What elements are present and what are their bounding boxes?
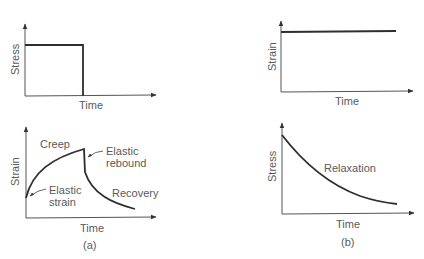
- relaxation-label: Relaxation: [324, 162, 376, 174]
- panel-a-top-stress-plot: Stress Time: [9, 24, 156, 111]
- elastic-rebound-label-line2: rebound: [106, 157, 146, 169]
- x-axis: [282, 213, 414, 214]
- elastic-strain-label-line2: strain: [49, 196, 76, 208]
- figure-canvas: Stress Time Strain Time Creep Elastic re…: [0, 0, 424, 259]
- y-axis-label: Strain: [266, 42, 278, 71]
- elastic-rebound-pointer: [88, 151, 103, 157]
- x-axis-label: Time: [335, 95, 359, 107]
- recovery-label: Recovery: [112, 187, 159, 199]
- creep-label: Creep: [40, 138, 70, 150]
- caption-a: (a): [83, 239, 96, 251]
- x-axis-label: Time: [79, 99, 103, 111]
- x-axis: [26, 217, 156, 218]
- x-axis: [281, 91, 413, 92]
- caption-b: (b): [341, 236, 354, 248]
- elastic-strain-pointer: [30, 189, 46, 196]
- panel-b-bottom-stress-plot: Stress Time Relaxation: [266, 123, 414, 230]
- elastic-strain-label-line1: Elastic: [49, 184, 82, 196]
- stress-step-curve: [25, 45, 83, 96]
- constant-strain-line: [281, 31, 396, 32]
- x-axis-label: Time: [336, 218, 360, 230]
- x-axis: [25, 95, 156, 96]
- y-axis-label: Strain: [9, 157, 21, 186]
- elastic-rebound-label-line1: Elastic: [106, 145, 139, 157]
- y-axis-label: Stress: [266, 150, 278, 182]
- y-axis-label: Stress: [9, 43, 21, 75]
- x-axis-label: Time: [80, 222, 104, 234]
- panel-a-bottom-strain-plot: Strain Time Creep Elastic rebound Elasti…: [9, 127, 159, 234]
- panel-b-top-strain-plot: Strain Time: [266, 21, 413, 107]
